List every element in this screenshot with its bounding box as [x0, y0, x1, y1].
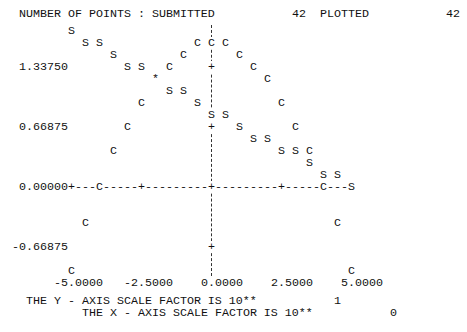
y-axis-tick-mark: +	[208, 181, 215, 193]
plot-point-c: C	[278, 97, 285, 109]
x-axis-line-segment: -	[173, 181, 180, 193]
x-axis-line-segment: -	[152, 181, 159, 193]
x-axis-line-segment: -	[187, 181, 194, 193]
plot-point-c: C	[348, 265, 355, 277]
x-axis-line-segment: -	[222, 181, 229, 193]
plot-point-s: S	[264, 133, 271, 145]
points-submitted-count: 42	[292, 8, 306, 20]
plot-point-s: S	[236, 121, 243, 133]
y-axis-tick-mark: +	[208, 241, 215, 253]
x-scale-factor-text: THE X - AXIS SCALE FACTOR IS 10**	[82, 307, 313, 319]
plot-point-c: C	[306, 145, 313, 157]
x-axis-line-segment: -	[159, 181, 166, 193]
y-tick-label: 1.33750	[19, 61, 68, 73]
plot-point-s: S	[222, 109, 229, 121]
x-tick-label: 2.5000	[271, 277, 313, 289]
x-axis-line-segment: -	[264, 181, 271, 193]
points-plotted-label: PLOTTED	[320, 8, 369, 20]
plot-point-s: S	[250, 133, 257, 145]
x-axis-tick-mark: +	[138, 181, 145, 193]
x-axis-line-segment: -	[236, 181, 243, 193]
plot-point-s: S	[278, 145, 285, 157]
plot-point-s: S	[320, 169, 327, 181]
x-axis-line-segment: -	[110, 181, 117, 193]
plot-point-s: S	[138, 61, 145, 73]
x-axis-line-segment: -	[124, 181, 131, 193]
x-axis-line-segment: -	[180, 181, 187, 193]
plot-point-s: S	[334, 169, 341, 181]
x-tick-label: -5.0000	[54, 277, 103, 289]
plot-point-s: S	[124, 61, 131, 73]
x-axis-tick-mark: +	[278, 181, 285, 193]
x-axis-line-segment: -	[82, 181, 89, 193]
plot-point-s: S	[180, 85, 187, 97]
x-tick-label: -2.5000	[124, 277, 173, 289]
plot-point-overlap: *	[152, 73, 159, 85]
plot-point-c: C	[166, 61, 173, 73]
x-axis-line-segment: -	[229, 181, 236, 193]
plot-point-c: C	[292, 121, 299, 133]
plot-point-c: C	[334, 217, 341, 229]
plot-point-c: C	[320, 181, 327, 193]
y-tick-label: 0.66875	[19, 121, 68, 133]
plot-point-s: S	[82, 37, 89, 49]
x-axis-line-segment: -	[89, 181, 96, 193]
y-tick-label: 0.00000	[19, 181, 68, 193]
x-tick-label: 0.0000	[201, 277, 243, 289]
plot-point-c: C	[110, 145, 117, 157]
plot-point-s: S	[194, 97, 201, 109]
plot-point-c: C	[250, 61, 257, 73]
x-axis-line-segment: -	[103, 181, 110, 193]
plot-point-c: C	[236, 49, 243, 61]
x-axis-line-segment: -	[215, 181, 222, 193]
points-plotted-count: 42	[446, 8, 460, 20]
plot-point-s: S	[208, 109, 215, 121]
plot-point-s: S	[96, 37, 103, 49]
x-axis-tick-mark: +	[68, 181, 75, 193]
plot-point-s: S	[306, 157, 313, 169]
x-axis-line-segment: -	[194, 181, 201, 193]
plot-point-c: C	[264, 73, 271, 85]
x-scale-factor-exponent: 0	[390, 307, 397, 319]
points-header-label: NUMBER OF POINTS : SUBMITTED	[19, 8, 215, 20]
plot-point-c: C	[124, 121, 131, 133]
plot-point-c: C	[208, 37, 215, 49]
x-axis-line-segment: -	[166, 181, 173, 193]
y-tick-label: -0.66875	[12, 241, 68, 253]
x-axis-line-segment: -	[306, 181, 313, 193]
x-axis-line-segment: -	[341, 181, 348, 193]
plot-point-s: S	[348, 181, 355, 193]
x-axis-line-segment: -	[131, 181, 138, 193]
plot-point-c: C	[180, 49, 187, 61]
y-scale-factor-exponent: 1	[334, 295, 341, 307]
plot-point-s: S	[110, 49, 117, 61]
plot-point-c: C	[82, 217, 89, 229]
plot-point-s: S	[292, 145, 299, 157]
x-axis-line-segment: -	[201, 181, 208, 193]
x-tick-label: 5.0000	[341, 277, 383, 289]
x-axis-line-segment: -	[285, 181, 292, 193]
x-axis-line-segment: -	[243, 181, 250, 193]
x-axis-line-segment: -	[257, 181, 264, 193]
plot-point-s: S	[68, 25, 75, 37]
y-axis-tick-mark: +	[208, 121, 215, 133]
plot-point-c: C	[138, 97, 145, 109]
plot-point-c: C	[96, 181, 103, 193]
x-axis-line-segment: -	[299, 181, 306, 193]
plot-point-s: S	[166, 85, 173, 97]
plot-point-c: C	[222, 37, 229, 49]
plot-point-c: C	[68, 265, 75, 277]
x-axis-line-segment: -	[145, 181, 152, 193]
x-axis-line-segment: -	[313, 181, 320, 193]
plot-point-c: C	[194, 37, 201, 49]
x-axis-line-segment: -	[117, 181, 124, 193]
x-axis-line-segment: -	[334, 181, 341, 193]
x-axis-line-segment: -	[292, 181, 299, 193]
x-axis-line-segment: -	[75, 181, 82, 193]
y-axis-tick-mark: +	[208, 61, 215, 73]
x-axis-line-segment: -	[250, 181, 257, 193]
x-axis-line-segment: -	[271, 181, 278, 193]
line-printer-plot-page: NUMBER OF POINTS : SUBMITTED 42 PLOTTED …	[0, 0, 467, 332]
x-axis-line-segment: -	[327, 181, 334, 193]
